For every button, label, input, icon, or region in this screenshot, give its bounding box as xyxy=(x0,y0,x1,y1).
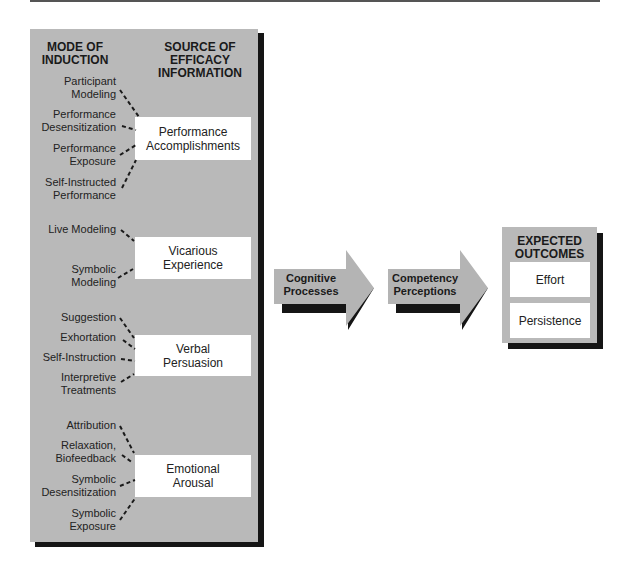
outcome-persistence: Persistence xyxy=(510,303,590,338)
outcomes-title: EXPECTEDOUTCOMES xyxy=(502,235,597,261)
outcome-effort: Effort xyxy=(510,262,590,297)
arrow-label-competency-perceptions: CompetencyPerceptions xyxy=(388,272,462,298)
arrow-label-cognitive-processes: CognitiveProcesses xyxy=(276,272,346,298)
